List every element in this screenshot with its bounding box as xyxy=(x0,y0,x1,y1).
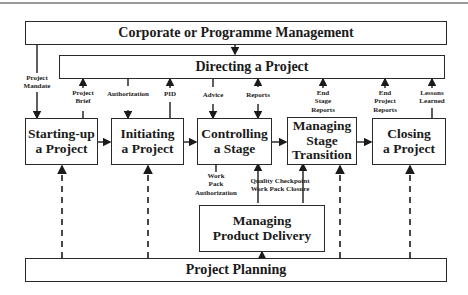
label-line: PID xyxy=(164,90,176,98)
process-closing: Closing a Project xyxy=(372,118,446,165)
label-line: Mandate xyxy=(24,82,51,90)
label-line: Learned xyxy=(419,97,444,105)
label-line: End xyxy=(311,89,335,97)
label-line: Brief xyxy=(72,97,94,105)
label-line: Pack xyxy=(195,180,237,188)
flow-label-end-stage-reports: End Stage Reports xyxy=(311,89,335,114)
label-line: Quality Checkpoint xyxy=(251,177,310,185)
corporate-management-label: Corporate or Programme Management xyxy=(118,25,353,40)
process-initiating: Initiating a Project xyxy=(111,118,184,165)
label-line: Project xyxy=(72,89,94,97)
process-managing-stage-transition: Managing Stage Transition xyxy=(287,117,357,165)
corporate-management-bar: Corporate or Programme Management xyxy=(25,21,447,45)
process-label: a Stage xyxy=(214,142,256,157)
delivery-label: Product Delivery xyxy=(213,229,311,244)
label-line: Work xyxy=(195,172,237,180)
flow-label-project-brief: Project Brief xyxy=(72,89,94,106)
process-label: a Project xyxy=(36,142,88,157)
managing-product-delivery-box: Managing Product Delivery xyxy=(199,205,325,252)
label-line: Project xyxy=(24,74,51,82)
flow-label-work-pack-authorization: Work Pack Authorization xyxy=(195,172,237,197)
delivery-label: Managing xyxy=(233,214,292,229)
flow-label-project-mandate: Project Mandate xyxy=(24,74,51,91)
process-label: Transition xyxy=(292,148,352,163)
flow-label-lessons-learned: Lessons Learned xyxy=(419,89,444,106)
process-label: Closing xyxy=(387,127,431,142)
prince2-process-diagram: Corporate or Programme Management Direct… xyxy=(0,0,468,295)
label-line: Work Pack Closure xyxy=(251,185,310,193)
label-line: Advice xyxy=(203,91,224,99)
label-line: Authorization xyxy=(195,189,237,197)
process-label: Starting-up xyxy=(28,127,95,142)
label-line: Lessons xyxy=(419,89,444,97)
label-line: Reports xyxy=(246,91,270,99)
process-label: Stage xyxy=(306,134,338,149)
process-controlling-stage: Controlling a Stage xyxy=(197,118,272,165)
flow-label-quality-checkpoint: Quality Checkpoint Work Pack Closure xyxy=(251,177,310,194)
process-label: Controlling xyxy=(201,127,268,142)
flow-label-authorization: Authorization xyxy=(107,90,149,98)
label-line: Reports xyxy=(373,106,397,114)
label-line: Authorization xyxy=(107,90,149,98)
directing-project-label: Directing a Project xyxy=(196,59,309,74)
process-label: Managing xyxy=(293,119,352,134)
label-line: Project xyxy=(373,97,397,105)
label-line: Reports xyxy=(311,106,335,114)
flow-label-reports: Reports xyxy=(246,91,270,99)
label-line: End xyxy=(373,89,397,97)
process-label: Initiating xyxy=(120,127,174,142)
process-label: a Project xyxy=(383,142,435,157)
flow-label-advice: Advice xyxy=(203,91,224,99)
flow-label-pid: PID xyxy=(164,90,176,98)
project-planning-bar: Project Planning xyxy=(25,258,447,282)
label-line: Stage xyxy=(311,97,335,105)
process-label: a Project xyxy=(122,142,174,157)
flow-label-end-project-reports: End Project Reports xyxy=(373,89,397,114)
directing-project-bar: Directing a Project xyxy=(59,55,445,79)
process-starting-up: Starting-up a Project xyxy=(25,118,98,165)
project-planning-label: Project Planning xyxy=(186,262,286,277)
